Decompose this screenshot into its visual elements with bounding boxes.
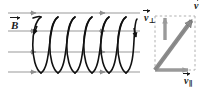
- helix-loop-back: [50, 17, 58, 73]
- v-parallel-label: v∥: [184, 76, 193, 88]
- v-total-label: v: [194, 1, 199, 13]
- helix-loop-back: [118, 17, 126, 73]
- helix-loop-front: [41, 17, 58, 73]
- diagram-canvas: [0, 0, 213, 91]
- physics-diagram-helical-motion: B v⊥ v v∥: [0, 0, 213, 91]
- velocity-vector-diagram: [155, 16, 195, 70]
- magnetic-field-symbol: B: [11, 20, 18, 31]
- magnetic-field-label: B: [11, 20, 19, 33]
- helix-loop-front: [126, 19, 137, 73]
- v-parallel-symbol: v: [184, 76, 188, 86]
- v-perpendicular-symbol: v: [144, 13, 148, 23]
- helix-loop-back: [67, 17, 75, 73]
- v-perpendicular-label: v⊥: [144, 13, 156, 25]
- helix-trajectory: [33, 16, 137, 73]
- v-resultant-outline: [155, 21, 192, 71]
- v-parallel-subscript: ∥: [189, 80, 193, 88]
- helix-loop-front: [109, 17, 126, 73]
- helix-loop-front: [58, 17, 75, 73]
- v-perpendicular-subscript: ⊥: [149, 17, 156, 25]
- helix-loop-back: [33, 17, 41, 73]
- helix-loop-back: [101, 17, 109, 73]
- helix-loop-front: [75, 17, 92, 73]
- helix-loop-back: [84, 17, 92, 73]
- helix-loop-front: [92, 17, 109, 73]
- v-total-symbol: v: [194, 1, 198, 11]
